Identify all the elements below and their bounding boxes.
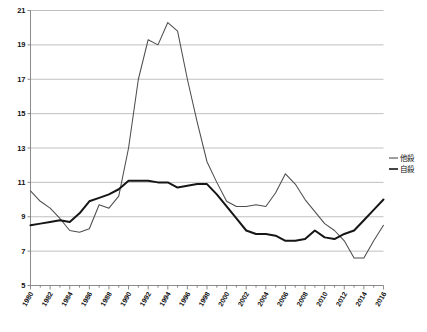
- x-axis: [31, 286, 384, 290]
- chart-canvas: 211917151311975 198019821984198619881990…: [0, 0, 427, 332]
- x-tick-label: 2014: [354, 290, 368, 307]
- x-tick-label: 2012: [334, 290, 348, 307]
- line-chart: 211917151311975 198019821984198619881990…: [0, 0, 427, 332]
- x-tick-label: 1994: [158, 290, 172, 307]
- y-tick-label: 15: [17, 109, 25, 118]
- y-tick-label: 17: [17, 75, 25, 84]
- y-tick-label: 13: [17, 144, 25, 153]
- x-tick-label: 2006: [276, 290, 290, 307]
- x-tick-label: 2002: [236, 290, 250, 307]
- y-tick-label: 11: [18, 178, 26, 187]
- series-line-1: [31, 181, 384, 241]
- legend-label-1: 自殺: [400, 164, 415, 174]
- y-axis: [28, 11, 31, 286]
- x-tick-label: 2010: [315, 290, 329, 307]
- x-tick-label: 2004: [256, 290, 270, 307]
- y-tick-label: 7: [21, 247, 25, 256]
- y-tick-labels: 211917151311975: [17, 6, 25, 290]
- x-tick-label: 1998: [197, 290, 211, 307]
- x-tick-labels: 1980198219841986198819901992199419961998…: [21, 290, 388, 307]
- x-tick-label: 1992: [138, 290, 152, 307]
- y-tick-label: 5: [21, 281, 25, 290]
- x-tick-label: 1980: [21, 290, 35, 307]
- data-series: [31, 23, 384, 258]
- series-line-0: [31, 23, 384, 258]
- x-tick-label: 2000: [217, 290, 231, 307]
- x-tick-label: 1996: [178, 290, 192, 307]
- legend-label-0: 他殺: [400, 153, 415, 163]
- x-tick-label: 1990: [119, 290, 133, 307]
- x-tick-label: 2008: [295, 290, 309, 307]
- x-tick-label: 1986: [80, 290, 94, 307]
- y-tick-label: 21: [17, 6, 25, 15]
- chart-legend: 他殺自殺: [389, 153, 415, 174]
- x-tick-label: 1982: [40, 290, 54, 307]
- y-tick-label: 9: [21, 212, 25, 221]
- gridlines: [31, 11, 384, 252]
- x-tick-label: 2016: [374, 290, 388, 307]
- x-tick-label: 1984: [60, 290, 74, 307]
- x-tick-label: 1988: [99, 290, 113, 307]
- y-tick-label: 19: [17, 40, 25, 49]
